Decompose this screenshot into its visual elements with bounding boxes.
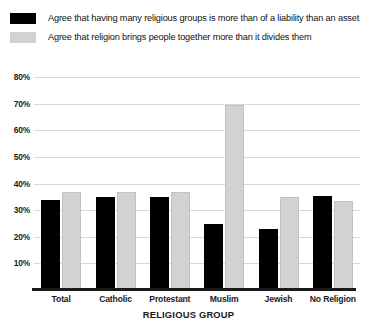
bar-group: [204, 64, 244, 290]
legend-swatch-series-b: [10, 32, 36, 43]
bar: [280, 197, 299, 290]
bar: [62, 192, 81, 290]
legend-label-series-b: Agree that religion brings people togeth…: [48, 32, 312, 43]
y-axis-tick-label: 80%: [0, 72, 30, 82]
bar: [225, 105, 244, 290]
bar-chart: Agree that having many religious groups …: [0, 0, 377, 327]
y-axis-tick-label: 50%: [0, 152, 30, 162]
x-axis-baseline: [32, 288, 356, 291]
y-axis-tick-label: 60%: [0, 125, 30, 135]
y-axis-tick-label: 70%: [0, 99, 30, 109]
bar-group: [41, 64, 81, 290]
bar-group: [313, 64, 353, 290]
bar: [96, 197, 115, 290]
y-axis-tick-label: 30%: [0, 205, 30, 215]
x-axis-tick-label: Protestant: [149, 294, 190, 304]
y-axis-tick-label: 20%: [0, 232, 30, 242]
bar: [204, 224, 223, 290]
bars-layer: [34, 64, 360, 290]
bar: [334, 201, 353, 290]
bar: [259, 229, 278, 290]
legend-item-series-b: Agree that religion brings people togeth…: [10, 28, 370, 47]
bar: [171, 192, 190, 290]
y-axis-tick-label: 10%: [0, 258, 30, 268]
bar-group: [150, 64, 190, 290]
bar-group: [96, 64, 136, 290]
chart-legend: Agree that having many religious groups …: [10, 9, 370, 47]
x-axis-tick-label: Total: [52, 294, 71, 304]
bar: [41, 200, 60, 290]
x-axis-tick-label: Jewish: [265, 294, 293, 304]
bar-group: [259, 64, 299, 290]
x-axis-tick-label: No Religion: [310, 294, 356, 304]
legend-label-series-a: Agree that having many religious groups …: [48, 13, 359, 24]
bar: [117, 192, 136, 290]
y-axis-tick-label: 40%: [0, 179, 30, 189]
legend-item-series-a: Agree that having many religious groups …: [10, 9, 370, 28]
x-axis-tick-label: Muslim: [210, 294, 239, 304]
bar: [150, 197, 169, 290]
legend-swatch-series-a: [10, 13, 36, 24]
bar: [313, 196, 332, 290]
x-axis-tick-label: Catholic: [99, 294, 132, 304]
x-axis-title: RELIGIOUS GROUP: [0, 309, 377, 320]
